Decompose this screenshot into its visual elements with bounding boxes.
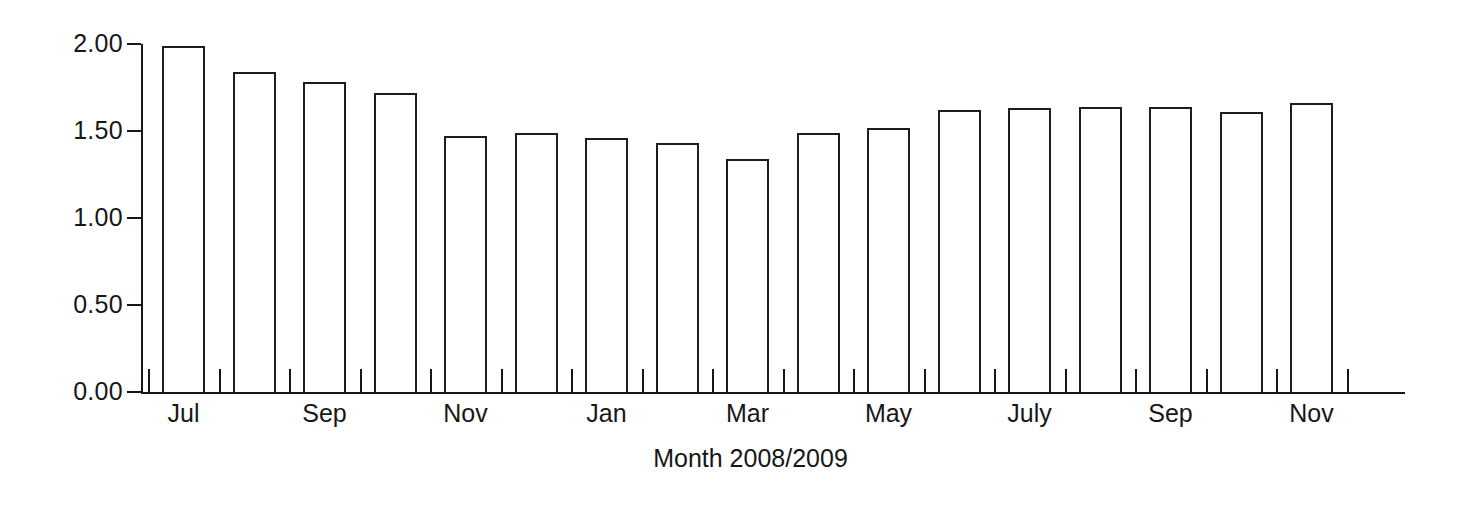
bar	[162, 46, 205, 392]
bar	[726, 159, 769, 392]
y-axis-tick-label-text: 2.00	[43, 31, 123, 56]
bar	[938, 110, 981, 392]
x-axis-title-text: Month 2008/2009	[653, 443, 848, 473]
x-axis-tick	[853, 369, 855, 392]
bar	[656, 143, 699, 392]
y-axis-tick	[127, 391, 141, 393]
bar-chart: 0.000.501.001.502.00 JulSepNovJanMarMayJ…	[0, 0, 1465, 509]
x-axis-tick	[994, 369, 996, 392]
x-axis-tick	[1206, 369, 1208, 392]
bar	[1290, 103, 1333, 392]
bar	[1149, 107, 1192, 392]
x-axis-tick	[1135, 369, 1137, 392]
y-axis-tick-label-text: 1.50	[43, 118, 123, 143]
x-axis-tick	[430, 369, 432, 392]
x-axis-tick-label: Sep	[1148, 398, 1192, 428]
y-axis-tick-label: 1.00	[27, 205, 123, 230]
bar	[1220, 112, 1263, 392]
x-axis-tick	[1347, 369, 1349, 392]
bar	[585, 138, 628, 392]
x-axis-line	[141, 392, 1405, 394]
x-axis-tick	[289, 369, 291, 392]
x-axis-tick-label: Mar	[726, 398, 769, 428]
y-axis-tick-label-text: 1.00	[43, 205, 123, 230]
y-axis-tick	[127, 217, 141, 219]
x-axis-title: Month 2008/2009	[0, 443, 1465, 473]
x-axis-tick-label: July	[1007, 398, 1051, 428]
bar	[374, 93, 417, 392]
x-axis-tick-label: Sep	[302, 398, 346, 428]
y-axis-tick	[127, 43, 141, 45]
x-axis-tick	[1065, 369, 1067, 392]
y-axis-line	[141, 44, 143, 393]
y-axis-tick	[127, 304, 141, 306]
bar	[1079, 107, 1122, 392]
y-axis-tick-label-text: 0.50	[43, 292, 123, 317]
x-axis-tick-label: Jan	[586, 398, 626, 428]
y-axis-tick-label: 0.50	[27, 292, 123, 317]
x-axis-tick	[360, 369, 362, 392]
y-axis-tick-label: 0.00	[27, 379, 123, 404]
x-axis-tick	[1276, 369, 1278, 392]
x-axis-tick-label: May	[865, 398, 912, 428]
y-axis-tick	[127, 130, 141, 132]
x-axis-tick	[571, 369, 573, 392]
bar	[797, 133, 840, 392]
bar	[444, 136, 487, 392]
x-axis-tick-label: Nov	[443, 398, 487, 428]
y-axis-tick-label-text: 0.00	[43, 379, 123, 404]
x-axis-tick	[783, 369, 785, 392]
bar	[867, 128, 910, 392]
bar	[233, 72, 276, 392]
x-axis-tick	[642, 369, 644, 392]
x-axis-tick	[924, 369, 926, 392]
y-axis-tick-label: 1.50	[27, 118, 123, 143]
x-axis-tick	[148, 369, 150, 392]
bar	[1008, 108, 1051, 392]
x-axis-tick	[219, 369, 221, 392]
x-axis-tick	[501, 369, 503, 392]
bar	[515, 133, 558, 392]
x-axis-tick-label: Jul	[168, 398, 200, 428]
x-axis-tick	[712, 369, 714, 392]
bar	[303, 82, 346, 392]
x-axis-tick-label: Nov	[1289, 398, 1333, 428]
y-axis-tick-label: 2.00	[27, 31, 123, 56]
